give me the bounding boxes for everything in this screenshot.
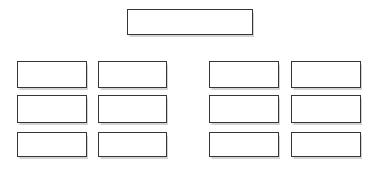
box bbox=[17, 95, 87, 123]
box bbox=[291, 61, 361, 88]
box bbox=[209, 132, 279, 157]
box bbox=[209, 61, 279, 88]
box bbox=[17, 61, 87, 88]
box bbox=[98, 132, 167, 157]
box bbox=[17, 132, 87, 157]
box bbox=[209, 95, 279, 123]
box bbox=[98, 61, 167, 88]
box bbox=[291, 95, 361, 123]
empty-boxes-diagram bbox=[0, 0, 378, 172]
box bbox=[98, 95, 167, 123]
box bbox=[291, 132, 361, 157]
header-box bbox=[127, 9, 253, 35]
